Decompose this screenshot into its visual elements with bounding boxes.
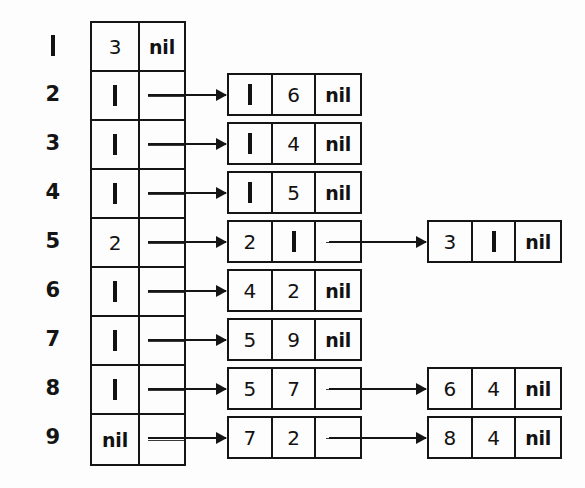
header-table: 3nil2nil	[90, 21, 186, 466]
list-node[interactable]: 6nil	[227, 73, 362, 116]
node-cell-value: 8	[443, 426, 456, 450]
nil-label: nil	[525, 427, 551, 449]
node-cell-value-1: 6	[429, 369, 473, 408]
header-cell-pointer	[140, 72, 184, 119]
row-index-value: 8	[45, 376, 60, 400]
node-cell-value-1	[229, 75, 273, 114]
node-cell-value: 5	[243, 328, 256, 352]
row-index-value: 3	[45, 131, 60, 155]
node-cell-value: 4	[243, 279, 256, 303]
node-cell-value: 2	[243, 230, 256, 254]
node-cell-pointer: nil	[316, 271, 360, 310]
node-cell-value-2: 7	[273, 369, 317, 408]
header-table-row[interactable]: nil	[92, 415, 184, 464]
list-node[interactable]: 42nil	[227, 269, 362, 312]
node-cell-value-2: 4	[473, 418, 517, 457]
header-table-row[interactable]	[92, 121, 184, 170]
nil-label: nil	[325, 84, 351, 106]
node-cell-value-2: 2	[273, 418, 317, 457]
pointer-stub	[148, 243, 184, 245]
pointer-arrow	[148, 143, 226, 145]
header-cell-data	[92, 366, 140, 413]
header-cell-pointer	[140, 366, 184, 413]
row-index-label-8: 8	[38, 378, 68, 399]
digit-one-glyph	[248, 84, 252, 105]
pointer-arrow	[329, 241, 426, 243]
pointer-stub	[148, 96, 184, 98]
list-node[interactable]: 3nil	[427, 220, 562, 263]
digit-one-glyph	[113, 379, 117, 400]
node-cell-value-1: 3	[429, 222, 473, 261]
node-cell-value: 5	[287, 181, 300, 205]
digit-one-glyph	[248, 182, 252, 203]
node-cell-pointer: nil	[316, 124, 360, 163]
node-cell-value-1	[229, 173, 273, 212]
nil-label: nil	[325, 329, 351, 351]
pointer-arrow	[329, 437, 426, 439]
header-table-row[interactable]	[92, 366, 184, 415]
digit-one-glyph	[51, 35, 55, 56]
row-index-label-5: 5	[38, 231, 68, 252]
nil-label: nil	[525, 378, 551, 400]
nil-label: nil	[325, 182, 351, 204]
node-cell-value-2: 2	[273, 271, 317, 310]
pointer-stub	[148, 341, 184, 343]
row-index-label-3: 3	[38, 133, 68, 154]
header-cell-pointer	[140, 268, 184, 315]
digit-one-glyph	[248, 133, 252, 154]
header-cell-nil: nil	[140, 23, 184, 70]
list-node[interactable]: 64nil	[427, 367, 562, 410]
node-cell-value-1: 4	[229, 271, 273, 310]
row-index-label-7: 7	[38, 329, 68, 350]
header-cell-data: 2	[92, 219, 140, 266]
node-cell-pointer: nil	[316, 75, 360, 114]
header-data-value: 2	[109, 231, 122, 255]
node-cell-value-2	[273, 222, 317, 261]
node-cell-pointer: nil	[516, 369, 560, 408]
pointer-arrow	[148, 437, 226, 439]
node-cell-value-1: 5	[229, 320, 273, 359]
header-cell-data: 3	[92, 23, 140, 70]
row-index-label-4: 4	[38, 182, 68, 203]
node-cell-value-2: 9	[273, 320, 317, 359]
node-cell-value-1: 2	[229, 222, 273, 261]
node-cell-value-2: 5	[273, 173, 317, 212]
nil-label: nil	[325, 280, 351, 302]
header-table-row[interactable]: 2	[92, 219, 184, 268]
pointer-stub	[148, 145, 184, 147]
node-cell-pointer: nil	[316, 173, 360, 212]
header-table-row[interactable]	[92, 170, 184, 219]
node-cell-value: 7	[243, 426, 256, 450]
node-cell-value-1: 8	[429, 418, 473, 457]
pointer-arrow	[329, 388, 426, 390]
row-index-value: 6	[45, 278, 60, 302]
pointer-stub	[148, 440, 184, 442]
node-cell-value: 4	[487, 426, 500, 450]
list-node[interactable]: 84nil	[427, 416, 562, 459]
pointer-arrow	[148, 290, 226, 292]
node-cell-value-1: 5	[229, 369, 273, 408]
pointer-arrow	[148, 192, 226, 194]
nil-label: nil	[149, 36, 175, 58]
node-cell-value: 4	[287, 132, 300, 156]
list-node[interactable]: 4nil	[227, 122, 362, 165]
list-node[interactable]: 5nil	[227, 171, 362, 214]
node-cell-value-2: 4	[473, 369, 517, 408]
node-cell-value: 2	[287, 279, 300, 303]
header-table-row[interactable]	[92, 317, 184, 366]
pointer-arrow	[148, 388, 226, 390]
node-cell-pointer: nil	[516, 222, 560, 261]
node-cell-value: 9	[287, 328, 300, 352]
digit-one-glyph	[113, 85, 117, 106]
header-table-row[interactable]	[92, 72, 184, 121]
row-index-label-9: 9	[38, 427, 68, 448]
row-index-label-6: 6	[38, 280, 68, 301]
node-cell-value: 6	[287, 83, 300, 107]
header-cell-pointer	[140, 317, 184, 364]
digit-one-glyph	[113, 183, 117, 204]
list-node[interactable]: 59nil	[227, 318, 362, 361]
header-table-row[interactable]: 3nil	[92, 23, 184, 72]
header-table-row[interactable]	[92, 268, 184, 317]
digit-one-glyph	[113, 330, 117, 351]
header-cell-pointer	[140, 415, 184, 464]
